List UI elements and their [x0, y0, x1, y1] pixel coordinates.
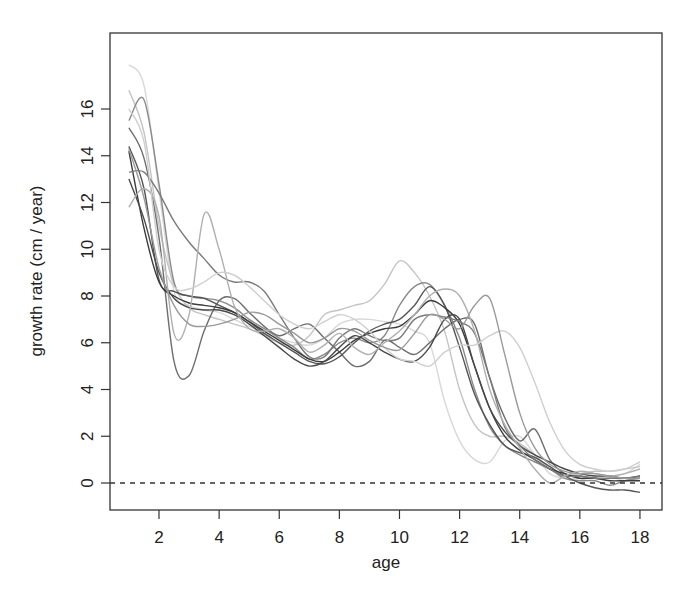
plot-frame — [110, 33, 662, 510]
y-tick-label: 6 — [78, 338, 97, 347]
series-line-1 — [129, 65, 640, 479]
growth-rate-chart: 24681012141618 0246810121416 age growth … — [0, 0, 696, 601]
x-axis-title: age — [372, 553, 400, 572]
x-tick-label: 10 — [390, 528, 409, 547]
y-tick-label: 2 — [78, 432, 97, 441]
x-tick-label: 14 — [510, 528, 529, 547]
x-tick-label: 12 — [450, 528, 469, 547]
y-tick-label: 16 — [78, 100, 97, 119]
series-line-3 — [129, 97, 640, 485]
y-tick-label: 14 — [78, 146, 97, 165]
y-tick-label: 4 — [78, 385, 97, 394]
x-tick-label: 6 — [275, 528, 284, 547]
y-axis: 0246810121416 — [78, 100, 110, 488]
x-tick-label: 16 — [570, 528, 589, 547]
y-tick-label: 12 — [78, 193, 97, 212]
y-tick-label: 0 — [78, 478, 97, 487]
x-tick-label: 8 — [335, 528, 344, 547]
x-tick-label: 18 — [630, 528, 649, 547]
series-layer — [129, 65, 640, 493]
y-axis-title: growth rate (cm / year) — [27, 186, 46, 357]
series-line-6 — [129, 151, 640, 481]
x-axis: 24681012141618 — [154, 510, 649, 547]
series-line-2 — [129, 90, 640, 476]
y-tick-label: 8 — [78, 291, 97, 300]
series-line-10 — [129, 109, 640, 471]
series-line-11 — [129, 149, 640, 479]
series-line-5 — [129, 146, 640, 492]
x-tick-label: 4 — [214, 528, 223, 547]
series-line-4 — [129, 128, 640, 479]
y-tick-label: 10 — [78, 240, 97, 259]
x-tick-label: 2 — [154, 528, 163, 547]
